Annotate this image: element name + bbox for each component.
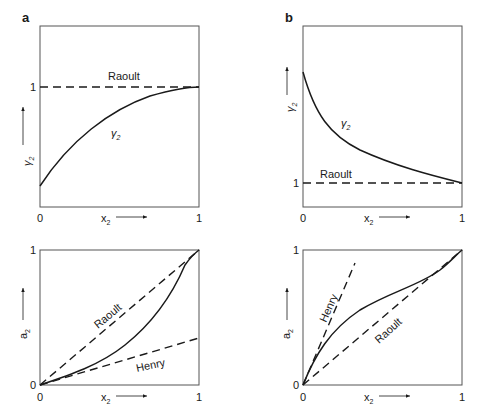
- y-tick-0: 0: [293, 379, 299, 391]
- y-tick-1: 1: [293, 177, 299, 189]
- svg-text:γ2: γ2: [284, 103, 298, 113]
- panel-b-bottom: Henry Raoult 1 0 0 1 x2 a2: [280, 244, 465, 405]
- panel-letter-a: a: [22, 10, 30, 25]
- x-axis-label: x2: [101, 391, 111, 405]
- svg-text:a2: a2: [17, 329, 31, 339]
- y-axis-label: γ2: [284, 103, 298, 113]
- y-tick-1: 1: [293, 244, 299, 256]
- y-tick-1: 1: [30, 81, 36, 93]
- x-tick-0: 0: [300, 391, 306, 403]
- gamma-curve: [303, 72, 462, 183]
- raoult-line: [40, 250, 199, 385]
- svg-text:γ2: γ2: [21, 157, 35, 167]
- y-tick-0: 0: [30, 379, 36, 391]
- gamma-curve-label: γ2: [111, 127, 121, 141]
- panel-a-top: a Raoult γ2 1 γ2 0 1 x2: [21, 10, 202, 226]
- panel-letter-b: b: [285, 10, 293, 25]
- y-axis-label: γ2: [21, 157, 35, 167]
- x-tick-0: 0: [300, 212, 306, 224]
- x-axis-label: x2: [364, 212, 374, 226]
- raoult-label: Raoult: [92, 301, 124, 331]
- raoult-label: Raoult: [108, 70, 140, 82]
- x-tick-0: 0: [37, 212, 43, 224]
- y-axis-label: a2: [17, 329, 31, 339]
- x-tick-1: 1: [196, 391, 202, 403]
- x-tick-1: 1: [459, 391, 465, 403]
- x-axis-label: x2: [101, 212, 111, 226]
- henry-label: Henry: [135, 356, 167, 374]
- x-axis-label: x2: [364, 391, 374, 405]
- y-axis-label: a2: [280, 329, 294, 339]
- henry-line: [40, 338, 199, 385]
- x-tick-0: 0: [37, 391, 43, 403]
- figure-canvas: a Raoult γ2 1 γ2 0 1 x2 Raoult Henry 1 0: [0, 0, 479, 418]
- svg-text:a2: a2: [280, 329, 294, 339]
- panel-a-bottom: Raoult Henry 1 0 0 1 x2 a2: [17, 244, 202, 405]
- panel-b-top: b Raoult γ2 1 γ2 0 1 x2: [284, 10, 465, 226]
- x-tick-1: 1: [459, 212, 465, 224]
- gamma-curve-label: γ2: [341, 117, 351, 131]
- plot-frame: [40, 26, 199, 207]
- raoult-label: Raoult: [372, 315, 404, 345]
- raoult-label: Raoult: [320, 168, 352, 180]
- x-tick-1: 1: [196, 212, 202, 224]
- y-tick-1: 1: [30, 244, 36, 256]
